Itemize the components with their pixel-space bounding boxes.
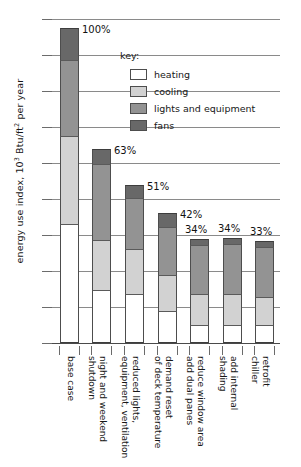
y-axis-title-part1: energy use index, 10 xyxy=(14,161,25,263)
bar-segment-cooling xyxy=(125,249,144,294)
bar-segment-lights-and-equipment xyxy=(60,60,79,136)
x-tick-2 xyxy=(91,346,92,355)
y-tick-400 xyxy=(42,55,52,56)
y-tick-300 xyxy=(42,127,52,128)
x-label-line: demand reset xyxy=(164,356,175,448)
x-label-line: reduce window area xyxy=(196,356,207,447)
bar-segment-lights-and-equipment xyxy=(223,244,242,294)
bar-segment-cooling xyxy=(92,240,111,290)
bar-2[interactable] xyxy=(92,149,111,343)
legend-label: fans xyxy=(154,120,174,131)
bar-percent-label-5: 34% xyxy=(185,224,207,235)
gridline-250 xyxy=(52,163,280,164)
x-label-line: shutdown xyxy=(87,356,98,442)
energy-use-index-bar-chart: energy use index, 103 Btu/ft2 per year 0… xyxy=(0,0,301,467)
x-tick-5b xyxy=(209,346,210,355)
x-label-line: add internal xyxy=(229,356,240,410)
bar-segment-heating xyxy=(223,325,242,343)
x-axis-label-4: demand resetof deck temperature xyxy=(153,356,174,448)
legend-items: heatingcoolinglights and equipmentfans xyxy=(118,66,278,133)
x-tick-7 xyxy=(254,346,255,355)
y-tick-100 xyxy=(42,271,52,272)
gridline-200 xyxy=(52,199,280,200)
bar-percent-label-6: 34% xyxy=(218,223,240,234)
bar-percent-label-1: 100% xyxy=(82,24,111,35)
bar-5[interactable] xyxy=(190,239,209,343)
x-label-line: reduced lights, xyxy=(131,356,142,458)
y-axis-title-exp1: 3 xyxy=(13,157,21,161)
x-tick-3b xyxy=(144,346,145,355)
bar-segment-lights-and-equipment xyxy=(92,164,111,240)
legend-item-lights-and-equipment[interactable]: lights and equipment xyxy=(118,100,278,116)
bar-segment-cooling xyxy=(223,294,242,325)
x-label-line: add dual panes xyxy=(185,356,196,447)
bar-segment-cooling xyxy=(60,136,79,225)
x-label-line: retrofit xyxy=(261,356,272,387)
x-label-line: chiller xyxy=(250,356,261,387)
bar-segment-lights-and-equipment xyxy=(158,227,177,275)
x-label-line: equipment, ventilation xyxy=(120,356,131,458)
bar-segment-lights-and-equipment xyxy=(255,247,274,297)
bar-3[interactable] xyxy=(125,185,144,343)
x-tick-1 xyxy=(59,346,60,355)
legend-label: lights and equipment xyxy=(154,103,255,114)
bar-segment-cooling xyxy=(158,275,177,312)
x-axis-label-6: add internalshading xyxy=(218,356,239,410)
x-tick-6b xyxy=(242,346,243,355)
bar-1[interactable] xyxy=(60,28,79,343)
x-label-line: night and weekend xyxy=(98,356,109,442)
x-tick-6 xyxy=(222,346,223,355)
y-tick-350 xyxy=(42,91,52,92)
x-tick-4b xyxy=(177,346,178,355)
bar-segment-fans xyxy=(125,185,144,198)
bar-percent-label-2: 63% xyxy=(114,145,136,156)
x-axis-label-5: reduce window areaadd dual panes xyxy=(185,356,206,447)
gridline-450 xyxy=(52,19,280,20)
legend-swatch-fans xyxy=(130,120,147,131)
bar-segment-heating xyxy=(158,311,177,343)
bar-percent-label-7: 33% xyxy=(250,226,272,237)
bar-segment-fans xyxy=(158,213,177,227)
bar-segment-cooling xyxy=(255,297,274,325)
bar-segment-heating xyxy=(255,325,274,343)
x-axis-label-7: retrofitchiller xyxy=(250,356,271,387)
legend-label: cooling xyxy=(154,86,188,97)
x-tick-5 xyxy=(189,346,190,355)
x-tick-4 xyxy=(157,346,158,355)
bar-segment-heating xyxy=(60,224,79,343)
x-axis-label-1: base case xyxy=(66,356,77,401)
bar-6[interactable] xyxy=(223,238,242,343)
y-tick-450 xyxy=(42,19,52,20)
y-tick-0 xyxy=(42,343,52,344)
legend-item-heating[interactable]: heating xyxy=(118,66,278,82)
bar-segment-fans xyxy=(92,149,111,165)
x-axis-label-3: reduced lights,equipment, ventilation xyxy=(120,356,141,458)
x-tick-3 xyxy=(124,346,125,355)
bar-segment-cooling xyxy=(190,294,209,325)
y-axis-title-part2: Btu/ft xyxy=(14,127,25,157)
bar-segment-heating xyxy=(190,325,209,343)
bar-segment-fans xyxy=(60,28,79,60)
bar-segment-lights-and-equipment xyxy=(125,198,144,249)
bar-percent-label-4: 42% xyxy=(180,209,202,220)
bar-segment-lights-and-equipment xyxy=(190,245,209,294)
x-label-line: of deck temperature xyxy=(153,356,164,448)
legend-title: key: xyxy=(118,50,278,61)
legend-swatch-heating xyxy=(130,69,147,80)
x-tick-2b xyxy=(111,346,112,355)
bar-7[interactable] xyxy=(255,241,274,343)
legend-item-cooling[interactable]: cooling xyxy=(118,83,278,99)
x-axis-labels: base casenight and weekendshutdownreduce… xyxy=(52,346,280,466)
chart-legend: key: heatingcoolinglights and equipmentf… xyxy=(118,50,278,134)
bar-4[interactable] xyxy=(158,213,177,343)
y-axis-title: energy use index, 103 Btu/ft2 per year xyxy=(13,56,25,286)
y-tick-50 xyxy=(42,307,52,308)
legend-label: heating xyxy=(154,69,190,80)
bar-segment-heating xyxy=(92,290,111,343)
x-label-line: base case xyxy=(66,356,77,401)
x-tick-7b xyxy=(274,346,275,355)
y-axis-title-part3: per year xyxy=(14,79,25,123)
y-tick-250 xyxy=(42,163,52,164)
legend-item-fans[interactable]: fans xyxy=(118,117,278,133)
legend-swatch-lights-and-equipment xyxy=(130,103,147,114)
